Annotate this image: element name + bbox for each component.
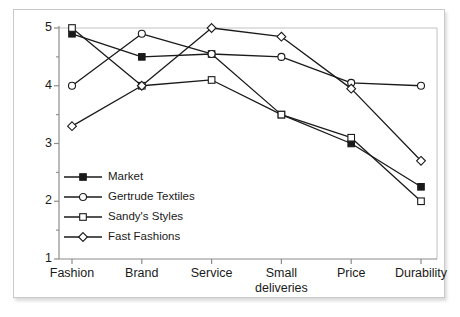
series-line-3: [72, 28, 421, 161]
data-point-marker-open-circle: [208, 50, 215, 57]
data-point-marker-filled-square: [80, 174, 87, 181]
data-point-marker-open-square: [418, 198, 425, 205]
y-tick-label: 3: [28, 136, 52, 151]
data-point-marker-open-circle: [69, 82, 76, 89]
data-point-marker-open-circle: [80, 194, 87, 201]
data-point-marker-open-square: [69, 25, 76, 32]
data-point-marker-open-square: [208, 77, 215, 84]
legend-label: Fast Fashions: [108, 230, 180, 242]
legend-label: Sandy's Styles: [108, 210, 183, 222]
data-point-marker-open-circle: [418, 82, 425, 89]
data-point-marker-open-diamond: [68, 122, 77, 131]
series-line-1: [72, 34, 421, 86]
data-point-marker-open-circle: [278, 53, 285, 60]
y-tick-label: 1: [28, 251, 52, 266]
data-point-marker-open-square: [80, 214, 87, 221]
legend-marker-open-diamond-icon: [62, 231, 104, 243]
data-point-marker-open-diamond: [79, 233, 88, 242]
chart-figure: 12345 FashionBrandServiceSmall deliverie…: [0, 0, 460, 317]
x-tick-label: Durability: [374, 266, 460, 281]
y-tick-label: 2: [28, 193, 52, 208]
legend-marker-open-square-icon: [62, 211, 104, 223]
chart-frame: 12345 FashionBrandServiceSmall deliverie…: [13, 9, 445, 298]
legend-marker-filled-square-icon: [62, 171, 104, 183]
y-tick-label: 4: [28, 78, 52, 93]
data-point-marker-open-square: [278, 111, 285, 118]
data-point-marker-filled-square: [418, 184, 425, 191]
legend-label: Gertrude Textiles: [108, 190, 195, 202]
line-chart-plot: [14, 10, 444, 297]
data-point-marker-filled-square: [139, 54, 146, 61]
data-point-marker-open-circle: [138, 30, 145, 37]
series-line-0: [72, 34, 421, 187]
legend-label: Market: [108, 170, 143, 182]
data-point-marker-open-square: [348, 134, 355, 141]
legend-marker-open-circle-icon: [62, 191, 104, 203]
y-tick-label: 5: [28, 20, 52, 35]
